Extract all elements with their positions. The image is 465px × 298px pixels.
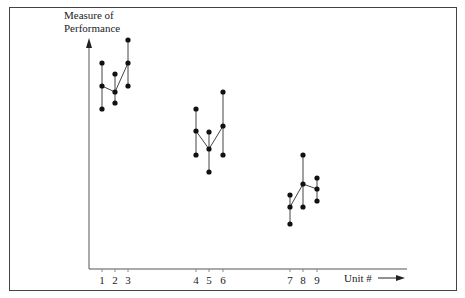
data-point-high (112, 71, 117, 76)
data-point-high (193, 106, 198, 111)
data-point-low (300, 204, 305, 209)
data-point-mid (99, 83, 104, 88)
x-tick-label: 4 (193, 274, 199, 286)
x-tick-label: 1 (99, 274, 105, 286)
data-point-mid (193, 128, 198, 133)
x-axis-label: Unit # (344, 272, 372, 284)
y-axis-arrow-icon (86, 38, 92, 48)
data-point-low (220, 152, 225, 157)
data-point-high (99, 60, 104, 65)
data-point-mid (314, 186, 319, 191)
data-point-high (125, 37, 130, 42)
x-axis-arrow-icon (396, 275, 405, 281)
x-tick-label: 6 (220, 274, 226, 286)
data-point-low (314, 198, 319, 203)
data-point-low (287, 221, 292, 226)
data-point-mid (112, 89, 117, 94)
data-point-high (314, 175, 319, 180)
x-tick-label: 7 (287, 274, 293, 286)
data-point-high (287, 192, 292, 197)
data-point-low (193, 152, 198, 157)
data-point-mid (287, 204, 292, 209)
x-tick-label: 5 (206, 274, 212, 286)
data-point-high (300, 152, 305, 157)
data-point-low (112, 100, 117, 105)
data-point-mid (300, 181, 305, 186)
data-point-mid (206, 146, 211, 151)
data-point-mid (220, 123, 225, 128)
x-tick-label: 3 (125, 274, 131, 286)
data-point-low (125, 83, 130, 88)
x-tick-label: 2 (112, 274, 118, 286)
x-tick-label: 8 (300, 274, 306, 286)
data-point-high (206, 129, 211, 134)
x-tick-label: 9 (314, 274, 320, 286)
data-point-low (99, 106, 104, 111)
data-point-mid (125, 60, 130, 65)
plot-area (0, 0, 465, 298)
data-point-high (220, 89, 225, 94)
data-point-low (206, 169, 211, 174)
